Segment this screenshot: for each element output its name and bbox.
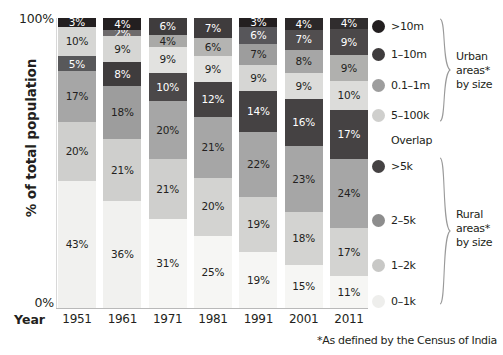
- bar-segment[interactable]: 43%: [58, 181, 96, 308]
- bar-column-1951[interactable]: 3%10%5%17%20%43%: [58, 18, 96, 308]
- legend-swatch-1-10m: [372, 48, 385, 61]
- bar-segment-label: 9%: [114, 44, 130, 55]
- bar-segment-label: 6%: [250, 30, 266, 41]
- legend-item-0.1-1m[interactable]: 0.1–1m: [372, 79, 430, 92]
- bar-segment[interactable]: 8%: [103, 62, 141, 86]
- bar-segment[interactable]: 17%: [330, 110, 368, 159]
- bar-segment-label: 15%: [292, 281, 315, 292]
- bar-segment[interactable]: 9%: [330, 29, 368, 55]
- bar-segment-label: 9%: [341, 37, 357, 48]
- bar-segment[interactable]: 4%: [285, 18, 323, 30]
- bar-column-2011[interactable]: 4%9%9%10%17%24%17%11%: [330, 18, 368, 308]
- bar-segment[interactable]: 4%: [330, 18, 368, 29]
- legend-label-gt5k: >5k: [391, 160, 413, 173]
- bar-segment-label: 18%: [111, 107, 134, 118]
- bar-segment[interactable]: 16%: [285, 99, 323, 145]
- bar-segment[interactable]: 22%: [239, 132, 277, 196]
- legend-overlap-label: Overlap: [391, 134, 432, 147]
- bar-segment[interactable]: 18%: [103, 86, 141, 139]
- bar-segment[interactable]: 21%: [149, 159, 187, 219]
- bar-segment-label: 9%: [205, 64, 221, 75]
- bar-segment-label: 7%: [296, 34, 312, 45]
- bar-segment[interactable]: 21%: [194, 117, 232, 178]
- bar-segment[interactable]: 7%: [239, 44, 277, 65]
- bar-segment-label: 36%: [111, 249, 134, 260]
- legend-label-gt10m: >10m: [391, 20, 424, 33]
- legend-item-0-1k[interactable]: 0–1k: [372, 295, 416, 308]
- legend-item-gt5k[interactable]: >5k: [372, 160, 413, 173]
- bar-segment[interactable]: 8%: [285, 50, 323, 73]
- bar-segment[interactable]: 18%: [285, 212, 323, 264]
- bar-segment[interactable]: 6%: [149, 18, 187, 35]
- x-axis-tick-1981: 1981: [194, 312, 232, 334]
- bar-segment[interactable]: 10%: [58, 27, 96, 57]
- bar-column-1971[interactable]: 6%4%9%10%20%21%31%: [149, 18, 187, 308]
- bar-segment-label: 24%: [338, 188, 361, 199]
- bar-segment[interactable]: 9%: [149, 47, 187, 73]
- bar-segment-label: 21%: [156, 184, 179, 195]
- bar-segment[interactable]: 17%: [330, 228, 368, 277]
- bar-segment[interactable]: 10%: [149, 73, 187, 102]
- bar-segment-label: 7%: [250, 49, 266, 60]
- bar-segment[interactable]: 9%: [285, 73, 323, 99]
- bar-segment[interactable]: 9%: [194, 56, 232, 82]
- bar-segment[interactable]: 19%: [239, 252, 277, 308]
- bar-column-1961[interactable]: 4%2%9%8%18%21%36%: [103, 18, 141, 308]
- bar-segment[interactable]: 3%: [58, 18, 96, 27]
- bar-segment[interactable]: 20%: [194, 178, 232, 236]
- plot-area: 3%10%5%17%20%43%4%2%9%8%18%21%36%6%4%9%1…: [58, 18, 368, 308]
- bar-segment[interactable]: 20%: [149, 101, 187, 158]
- bar-segment[interactable]: 10%: [330, 81, 368, 110]
- bar-segment[interactable]: 31%: [149, 219, 187, 308]
- bar-segment-label: 10%: [156, 82, 179, 93]
- bar-column-2001[interactable]: 4%7%8%9%16%23%18%15%: [285, 18, 323, 308]
- bar-segment-label: 3%: [250, 18, 266, 27]
- bar-column-1991[interactable]: 3%6%7%9%14%22%19%19%: [239, 18, 277, 308]
- legend-swatch-2-5k: [372, 214, 385, 227]
- bar-segment[interactable]: 24%: [330, 159, 368, 228]
- y-axis-title: % of total population: [23, 53, 39, 223]
- bar-segment[interactable]: 7%: [285, 30, 323, 50]
- bar-segment[interactable]: 12%: [194, 82, 232, 117]
- bar-segment[interactable]: 14%: [239, 91, 277, 132]
- bar-segment[interactable]: 20%: [58, 122, 96, 181]
- bar-segment[interactable]: 19%: [239, 197, 277, 253]
- legend-swatch-1-2k: [372, 259, 385, 272]
- bar-segment-label: 17%: [338, 247, 361, 258]
- bar-segment-label: 22%: [247, 159, 270, 170]
- legend-item-5-100k[interactable]: 5–100k: [372, 109, 429, 122]
- bar-segment[interactable]: 15%: [285, 265, 323, 309]
- bar-segment[interactable]: 11%: [330, 276, 368, 308]
- bar-segment[interactable]: 36%: [103, 201, 141, 308]
- bar-segment[interactable]: 5%: [58, 56, 96, 71]
- bar-segment[interactable]: 25%: [194, 236, 232, 309]
- bar-segment[interactable]: 4%: [149, 35, 187, 46]
- bar-segment[interactable]: 23%: [285, 146, 323, 213]
- legend-item-gt10m[interactable]: >10m: [372, 20, 424, 33]
- legend-label-1-10m: 1–10m: [391, 48, 427, 61]
- bar-segment-label: 14%: [247, 106, 270, 117]
- bar-segment[interactable]: 6%: [239, 27, 277, 45]
- bar-segment-label: 19%: [247, 275, 270, 286]
- bar-segment[interactable]: 7%: [194, 18, 232, 38]
- bar-segment[interactable]: 4%: [103, 18, 141, 30]
- bar-segment[interactable]: 9%: [330, 55, 368, 81]
- bar-segment-label: 4%: [296, 19, 312, 30]
- bar-segment-label: 21%: [111, 165, 134, 176]
- bar-segment[interactable]: 6%: [194, 38, 232, 55]
- bar-segment[interactable]: 3%: [239, 18, 277, 27]
- legend-item-1-2k[interactable]: 1–2k: [372, 259, 416, 272]
- bar-segment-label: 31%: [156, 258, 179, 269]
- bar-segment[interactable]: 9%: [103, 36, 141, 63]
- bar-segment[interactable]: 21%: [103, 139, 141, 201]
- legend-label-0-1k: 0–1k: [391, 295, 416, 308]
- bar-column-1981[interactable]: 7%6%9%12%21%20%25%: [194, 18, 232, 308]
- legend-item-2-5k[interactable]: 2–5k: [372, 214, 416, 227]
- bar-segment[interactable]: 17%: [58, 71, 96, 121]
- x-axis-tick-1961: 1961: [103, 312, 141, 334]
- legend-item-1-10m[interactable]: 1–10m: [372, 48, 427, 61]
- legend-group-urban-line1: Urban: [456, 50, 502, 64]
- bar-segment-label: 17%: [338, 129, 361, 140]
- x-axis-tick-2001: 2001: [285, 312, 323, 334]
- bar-segment[interactable]: 9%: [239, 65, 277, 91]
